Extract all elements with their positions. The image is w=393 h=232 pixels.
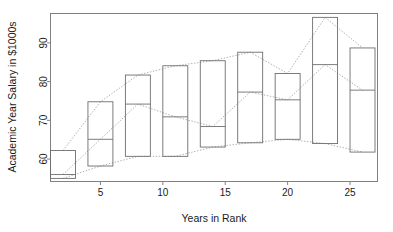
y-tick-label: 80 bbox=[38, 76, 49, 88]
x-axis-title: Years in Rank bbox=[182, 212, 248, 224]
y-tick-label: 60 bbox=[38, 153, 49, 165]
boxplot-chart: 60708090 510152025 Years in Rank Academi… bbox=[0, 0, 393, 232]
y-tick-label: 70 bbox=[38, 114, 49, 126]
x-tick-label: 25 bbox=[344, 187, 356, 198]
x-tick-label: 15 bbox=[220, 187, 232, 198]
y-axis-title: Academic Year Salary in $1000s bbox=[6, 21, 18, 172]
x-tick-label: 10 bbox=[157, 187, 169, 198]
y-tick-label: 90 bbox=[38, 37, 49, 49]
chart-canvas: 60708090 510152025 Years in Rank Academi… bbox=[0, 0, 393, 232]
x-tick-label: 20 bbox=[282, 187, 294, 198]
x-tick-label: 5 bbox=[98, 187, 104, 198]
chart-background bbox=[0, 0, 393, 232]
